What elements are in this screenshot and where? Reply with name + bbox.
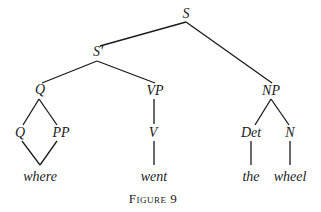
node-s: S: [183, 7, 190, 21]
node-np: NP: [262, 84, 280, 98]
tree-edge: [23, 99, 39, 125]
tree-edge: [186, 22, 272, 83]
tree-edge: [40, 141, 57, 165]
tree-edge: [39, 99, 57, 125]
node-q-low: Q: [15, 126, 25, 140]
node-det: Det: [241, 126, 261, 140]
word-the: the: [242, 170, 259, 184]
node-s-bar: S': [93, 45, 103, 59]
figure-caption: Figure 9: [129, 192, 177, 205]
node-vp: VP: [146, 84, 163, 98]
node-n: N: [285, 126, 294, 140]
word-went: went: [141, 170, 167, 184]
tree-edge: [97, 61, 155, 83]
node-pp: PP: [52, 126, 69, 140]
tree-edge: [271, 99, 289, 125]
tree-edge: [255, 99, 271, 125]
tree-edge: [22, 141, 40, 165]
tree-edge: [42, 61, 97, 83]
node-v: V: [149, 126, 158, 140]
tree-edge: [100, 22, 186, 46]
word-wheel: wheel: [274, 170, 307, 184]
node-q-top: Q: [35, 83, 45, 97]
word-where: where: [23, 170, 57, 184]
